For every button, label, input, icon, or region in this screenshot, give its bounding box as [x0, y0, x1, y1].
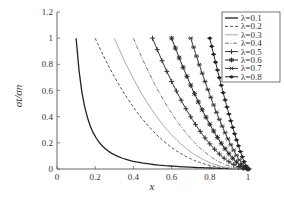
y-tick-label: 0: [49, 164, 54, 174]
y-tick-label: 0.8: [42, 59, 54, 69]
y-axis-label-text: σt/σn: [12, 84, 24, 107]
x-tick-label: 1: [246, 172, 251, 182]
y-tick-label: 0.6: [42, 86, 54, 96]
y-tick-label: 1: [49, 33, 54, 43]
x-tick-label: 0: [55, 172, 60, 182]
y-tick-label: 0.4: [42, 112, 54, 122]
y-tick-label: 0.2: [42, 138, 53, 148]
legend-label: λ=0.8: [241, 72, 262, 82]
chart: 00.20.40.60.8100.20.40.60.811.2 λ=0.1λ=0…: [0, 0, 284, 202]
x-tick-label: 0.6: [166, 172, 178, 182]
x-tick-label: 0.8: [204, 172, 216, 182]
legend: λ=0.1λ=0.2λ=0.3λ=0.4λ=0.5λ=0.6λ=0.7λ=0.8: [222, 12, 280, 82]
x-tick-label: 0.4: [128, 172, 140, 182]
x-axis-label: x: [149, 180, 155, 192]
y-tick-label: 1.2: [42, 7, 53, 17]
x-tick-label: 0.2: [90, 172, 101, 182]
y-axis-label: σt/σn: [12, 84, 24, 107]
